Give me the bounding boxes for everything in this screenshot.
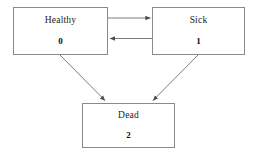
state-diagram: Healthy 0 Sick 1 Dead 2 [0, 0, 256, 153]
state-label-healthy: Healthy [45, 16, 76, 26]
state-node-dead[interactable]: Dead 2 [82, 103, 175, 148]
state-index-sick: 1 [196, 37, 201, 46]
state-node-healthy[interactable]: Healthy 0 [13, 7, 108, 55]
state-index-healthy: 0 [58, 37, 63, 46]
state-index-dead: 2 [126, 131, 131, 140]
state-label-dead: Dead [118, 111, 139, 121]
state-label-sick: Sick [190, 16, 208, 26]
edge-healthy-to-dead [60, 55, 105, 101]
state-node-sick[interactable]: Sick 1 [152, 7, 245, 55]
edge-sick-to-dead [153, 55, 198, 101]
